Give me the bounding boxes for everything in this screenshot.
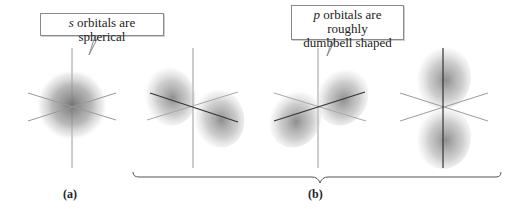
py-orbital: [260, 48, 376, 168]
s-orbital-callout: s orbitals are spherical: [40, 13, 164, 36]
px-orbital: [134, 48, 252, 168]
pz-orbital: [400, 45, 488, 169]
callout-text-line1: orbitals are roughly: [320, 7, 381, 36]
group-brace: [133, 172, 501, 183]
label-b: (b): [308, 187, 323, 202]
label-a: (a): [63, 187, 77, 202]
s-cloud: [36, 69, 108, 141]
s-orbital: [28, 48, 116, 168]
p-orbital-callout: p orbitals are roughly dumbbell shaped: [291, 5, 404, 40]
callout-text-line2: dumbbell shaped: [297, 36, 398, 50]
